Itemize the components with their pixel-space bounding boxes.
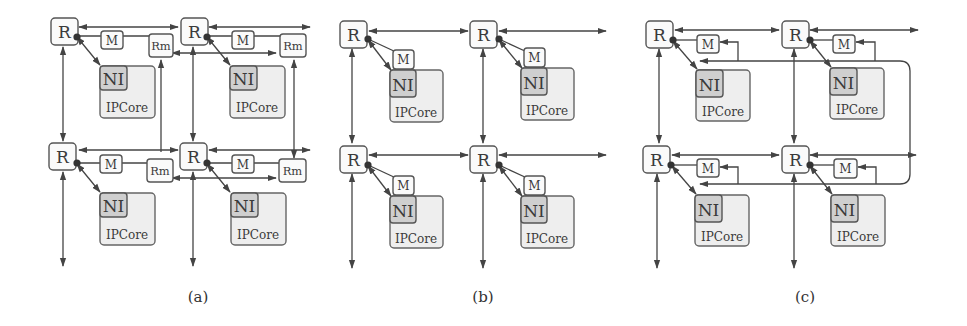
ipcore-label: IPCore — [106, 101, 148, 115]
monitor-label: M — [237, 34, 249, 48]
tap-point-icon — [667, 161, 674, 168]
router-label: R — [477, 25, 491, 45]
tap-point-icon — [669, 36, 676, 43]
router-label: R — [58, 22, 72, 42]
ni-label: NI — [699, 75, 721, 95]
monitor-label: M — [528, 179, 540, 193]
tap-point-icon — [364, 161, 371, 168]
ni-label: NI — [233, 69, 255, 89]
router-label: R — [188, 22, 202, 42]
tap-point-icon — [806, 36, 813, 43]
ipcore-label: IPCore — [837, 230, 879, 244]
router-label: R — [477, 150, 491, 170]
node-top-left: NI IPCore R M Rm — [51, 18, 173, 118]
tap-point-icon — [203, 159, 210, 166]
node-bottom-left: NI IPCore R M Rm — [49, 143, 173, 245]
ni-label: NI — [698, 200, 720, 220]
monitor-label: M — [528, 51, 540, 65]
monitor-label: M — [106, 34, 118, 48]
monitor-label: M — [397, 53, 409, 67]
node-bottom-right: NI IPCore R M Rm — [180, 143, 306, 245]
ipcore-label: IPCore — [702, 105, 744, 119]
panel-a: NI IPCore R M Rm NI IPCore R M Rm — [49, 18, 310, 306]
tap-point-icon — [495, 35, 502, 42]
monitor-tap — [720, 42, 738, 61]
ni-label: NI — [833, 73, 855, 93]
router-label: R — [650, 150, 664, 170]
ipcore-label: IPCore — [395, 232, 437, 246]
ni-label: NI — [103, 69, 125, 89]
node-top-right: NI IPCore M R — [782, 21, 884, 119]
ni-label: NI — [834, 200, 856, 220]
monitor-tap — [856, 42, 875, 61]
ipcore-label: IPCore — [836, 103, 878, 117]
remote-monitor-label: Rm — [151, 39, 171, 53]
tap-point-icon — [203, 33, 210, 40]
node-top-left: NI IPCore M R — [646, 21, 750, 121]
remote-monitor-label: Rm — [283, 164, 303, 178]
remote-monitor-label: Rm — [283, 39, 303, 53]
tap-point-icon — [73, 33, 80, 40]
panel-caption-b: (b) — [472, 288, 493, 306]
panel-caption-c: (c) — [795, 288, 815, 306]
monitor-tap — [720, 167, 738, 184]
node-bottom-right: NI IPCore M R — [470, 146, 574, 248]
ni-label: NI — [234, 196, 256, 216]
ni-label: NI — [392, 75, 414, 95]
ni-label: NI — [392, 201, 414, 221]
monitor-label: M — [838, 38, 850, 52]
router-label: R — [789, 25, 803, 45]
monitor-label: M — [839, 162, 851, 176]
ipcore-label: IPCore — [701, 230, 743, 244]
monitor-label: M — [105, 158, 117, 172]
monitor-label: M — [702, 38, 714, 52]
panel-caption-a: (a) — [188, 288, 209, 306]
monitor-label: M — [702, 162, 714, 176]
node-bottom-right: NI IPCore M R — [782, 146, 885, 246]
ipcore-label: IPCore — [106, 228, 148, 242]
ipcore-label: IPCore — [237, 228, 279, 242]
tap-point-icon — [495, 161, 502, 168]
router-label: R — [347, 150, 361, 170]
panel-c: NI IPCore M R NI IPCore M R NI — [643, 21, 918, 306]
tap-point-icon — [364, 35, 371, 42]
panel-b: NI IPCore M R NI IPCore M R NI — [340, 21, 606, 306]
ipcore-label: IPCore — [395, 106, 437, 120]
ipcore-label: IPCore — [526, 104, 568, 118]
node-top-left: NI IPCore M R — [340, 21, 443, 122]
router-label: R — [653, 25, 667, 45]
node-top-right: NI IPCore M R — [470, 21, 574, 120]
node-bottom-left: NI IPCore M R — [643, 146, 749, 246]
node-top-right: NI IPCore R M Rm — [181, 18, 306, 118]
ni-label: NI — [103, 196, 125, 216]
tap-point-icon — [806, 161, 813, 168]
tap-point-icon — [73, 159, 80, 166]
ni-label: NI — [523, 73, 545, 93]
router-label: R — [789, 150, 803, 170]
monitor-label: M — [397, 179, 409, 193]
remote-monitor-label: Rm — [150, 164, 170, 178]
router-label: R — [187, 147, 201, 167]
node-bottom-left: NI IPCore M R — [340, 146, 443, 248]
router-label: R — [347, 25, 361, 45]
ipcore-label: IPCore — [236, 101, 278, 115]
ipcore-label: IPCore — [526, 232, 568, 246]
router-label: R — [56, 147, 70, 167]
monitor-tap — [858, 167, 876, 184]
ni-label: NI — [523, 201, 545, 221]
noc-monitoring-diagram: NI IPCore R M Rm NI IPCore R M Rm — [0, 0, 967, 326]
monitor-label: M — [237, 158, 249, 172]
